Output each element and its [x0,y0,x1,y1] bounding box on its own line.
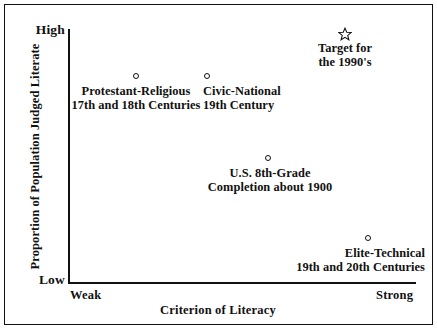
data-label-line1: Civic-National [203,84,281,98]
y-axis-line [68,29,70,284]
data-label-target-1990s: Target for the 1990's [285,41,405,69]
data-label-line1: Target for [318,41,372,55]
data-label-protestant-religious: Protestant-Religious 17th and 18th Centu… [56,84,216,112]
data-label-line2: 19th Century [203,98,343,112]
data-point-protestant-religious [133,73,139,79]
y-axis-title: Proportion of Population Judged Literate [28,37,43,277]
data-label-line1: Protestant-Religious [82,84,191,98]
plot-area: High Low Weak Strong Proportion of Popul… [0,0,437,329]
data-label-line2: the 1990's [285,55,405,69]
star-icon [338,27,352,41]
data-label-line2: 17th and 18th Centuries [56,98,216,112]
data-point-civic-national [204,73,210,79]
data-label-elite-technical: Elite-Technical 19th and 20th Centuries [264,246,425,274]
data-label-line1: Elite-Technical [345,246,425,260]
data-label-us-8th-grade: U.S. 8th-Grade Completion about 1900 [190,166,350,194]
x-axis-line [68,282,416,284]
data-label-line1: U.S. 8th-Grade [230,166,311,180]
y-axis-tick-low: Low [39,272,65,288]
data-point-us-8th-grade [265,155,271,161]
data-label-line2: Completion about 1900 [190,180,350,194]
x-axis-title: Criterion of Literacy [68,303,368,318]
x-axis-tick-strong: Strong [376,288,413,303]
data-point-target-1990s [338,27,352,41]
data-point-elite-technical [365,235,371,241]
data-label-civic-national: Civic-National 19th Century [203,84,343,112]
data-label-line2: 19th and 20th Centuries [264,260,425,274]
x-axis-tick-weak: Weak [70,288,101,303]
chart-figure: High Low Weak Strong Proportion of Popul… [0,0,437,329]
